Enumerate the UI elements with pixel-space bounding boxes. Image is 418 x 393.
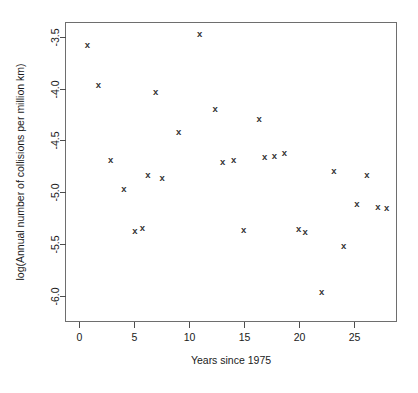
- y-tick-label: -3.5: [49, 28, 61, 46]
- y-tick-label: -5.5: [49, 235, 61, 253]
- data-point-marker: x: [384, 202, 390, 213]
- data-point-marker: x: [256, 113, 262, 124]
- data-point-marker: x: [160, 172, 166, 183]
- y-tick-label: -4.0: [49, 80, 61, 98]
- data-point-marker: x: [96, 79, 102, 90]
- data-point-marker: x: [212, 103, 218, 114]
- y-tick-label: -6.0: [49, 287, 61, 305]
- y-tick-label: -5.0: [49, 183, 61, 201]
- plot-frame: [66, 23, 397, 322]
- data-point-marker: x: [132, 225, 138, 236]
- data-point-marker: x: [331, 165, 337, 176]
- data-point-marker: x: [197, 28, 203, 39]
- data-point-marker: x: [108, 154, 114, 165]
- data-point-marker: x: [319, 286, 325, 297]
- x-axis-title: Years since 1975: [191, 354, 271, 366]
- x-tick-label: 10: [184, 331, 196, 343]
- data-point-marker: x: [282, 147, 288, 158]
- data-point-marker: x: [121, 183, 127, 194]
- x-tick-label: 20: [294, 331, 306, 343]
- y-tick-label: -4.5: [49, 131, 61, 149]
- data-point-marker: x: [375, 201, 381, 212]
- chart-canvas: 0510152025-3.5-4.0-4.5-5.0-5.5-6.0Years …: [0, 0, 418, 393]
- scatter-plot-figure: 0510152025-3.5-4.0-4.5-5.0-5.5-6.0Years …: [0, 0, 418, 393]
- x-axis: 0510152025: [77, 322, 361, 343]
- x-tick-label: 15: [239, 331, 251, 343]
- data-point-marker: x: [364, 169, 370, 180]
- data-point-marker: x: [296, 223, 302, 234]
- x-tick-label: 0: [77, 331, 83, 343]
- x-tick-label: 5: [132, 331, 138, 343]
- data-point-marker: x: [176, 126, 182, 137]
- data-point-marker: x: [341, 240, 347, 251]
- y-axis-title: log(Annual number of collisions per mill…: [14, 63, 26, 280]
- data-point-marker: x: [85, 39, 91, 50]
- y-axis: -3.5-4.0-4.5-5.0-5.5-6.0: [49, 28, 66, 305]
- x-tick-label: 25: [349, 331, 361, 343]
- data-point-marker: x: [231, 154, 237, 165]
- data-point-marker: x: [354, 198, 360, 209]
- data-point-marker: x: [262, 151, 268, 162]
- data-point-marker: x: [140, 222, 146, 233]
- data-point-marker: x: [220, 156, 226, 167]
- data-point-marker: x: [303, 226, 309, 237]
- data-point-marker: x: [153, 86, 159, 97]
- data-point-marker: x: [272, 150, 278, 161]
- data-points: xxxxxxxxxxxxxxxxxxxxxxxxxxxx: [85, 28, 390, 297]
- data-point-marker: x: [145, 169, 151, 180]
- data-point-marker: x: [241, 224, 247, 235]
